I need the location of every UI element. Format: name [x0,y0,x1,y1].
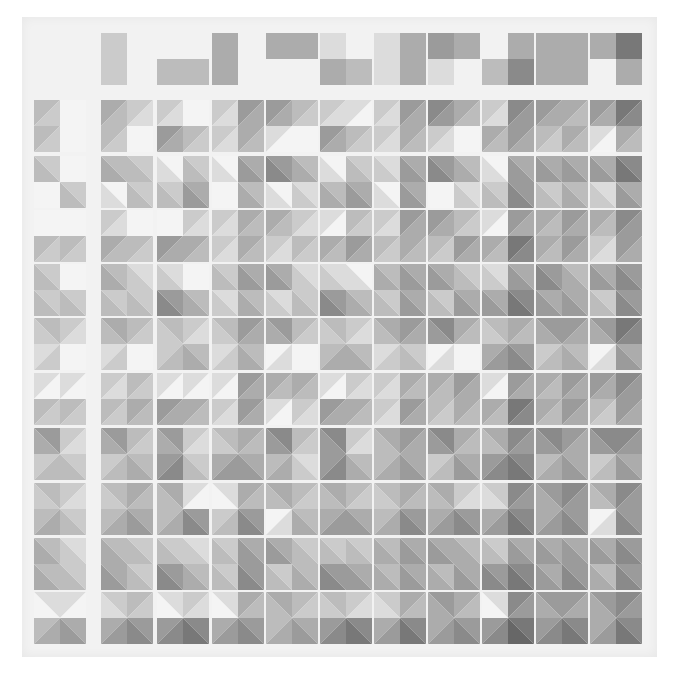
quilt-block [482,100,534,152]
quilt-block [266,483,318,535]
quilt-block [482,373,534,425]
quilt-block [374,592,426,644]
header-block [590,33,642,85]
quilt-block [157,318,209,370]
quilt-block [34,428,86,480]
quilt-block [212,592,264,644]
quilt-block [536,428,588,480]
quilt-block [320,210,372,262]
quilt-block [374,100,426,152]
quilt-block [157,592,209,644]
quilt-block [266,428,318,480]
quilt-block [320,373,372,425]
quilt-block [428,483,480,535]
quilt-block [157,538,209,590]
quilt-block [101,538,153,590]
quilt-block [212,210,264,262]
quilt-block [590,592,642,644]
quilt-block [212,373,264,425]
quilt-block [590,373,642,425]
quilt-block [590,264,642,316]
quilt-block [212,100,264,152]
quilt-block [536,318,588,370]
quilt-block [428,100,480,152]
quilt-block [34,156,86,208]
quilt-block [266,210,318,262]
quilt [22,17,657,657]
quilt-block [34,592,86,644]
header-block [428,33,480,85]
quilt-block [212,156,264,208]
quilt-block [266,592,318,644]
quilt-block [536,156,588,208]
quilt-block [266,156,318,208]
header-block [157,33,209,85]
quilt-block [320,318,372,370]
quilt-block [320,264,372,316]
quilt-block [428,538,480,590]
quilt-block [34,210,86,262]
quilt-block [590,210,642,262]
header-block [320,33,372,85]
quilt-block [428,156,480,208]
quilt-block [374,538,426,590]
quilt-block [482,538,534,590]
quilt-block [536,100,588,152]
header-block [482,33,534,85]
quilt-block [374,264,426,316]
quilt-block [266,100,318,152]
quilt-block [536,210,588,262]
quilt-block [101,373,153,425]
quilt-block [320,100,372,152]
quilt-block [320,156,372,208]
header-block [212,33,264,85]
quilt-block [536,538,588,590]
quilt-block [266,264,318,316]
quilt-block [590,318,642,370]
quilt-block [34,318,86,370]
quilt-block [101,428,153,480]
quilt-block [157,156,209,208]
quilt-block [157,210,209,262]
quilt-block [536,373,588,425]
quilt-block [536,592,588,644]
quilt-block [34,373,86,425]
quilt-block [212,264,264,316]
quilt-block [374,428,426,480]
quilt-block [101,210,153,262]
quilt-block [428,592,480,644]
header-block [34,33,86,85]
quilt-block [482,156,534,208]
quilt-block [157,483,209,535]
quilt-block [482,428,534,480]
quilt-block [482,210,534,262]
quilt-block [374,373,426,425]
quilt-block [157,100,209,152]
quilt-block [482,592,534,644]
quilt-block [482,264,534,316]
quilt-block [101,318,153,370]
quilt-block [101,592,153,644]
quilt-block [590,483,642,535]
quilt-block [428,318,480,370]
quilt-block [212,318,264,370]
quilt-block [536,483,588,535]
quilt-block [590,156,642,208]
header-block [536,33,588,85]
quilt-block [212,483,264,535]
quilt-block [157,264,209,316]
quilt-block [374,318,426,370]
quilt-block [157,428,209,480]
header-block [101,33,153,85]
quilt-block [590,428,642,480]
header-block [266,33,318,85]
quilt-block [34,483,86,535]
quilt-block [590,538,642,590]
quilt-block [266,373,318,425]
quilt-block [34,538,86,590]
quilt-block [482,318,534,370]
quilt-block [428,428,480,480]
quilt-block [590,100,642,152]
quilt-block [374,483,426,535]
quilt-block [320,592,372,644]
